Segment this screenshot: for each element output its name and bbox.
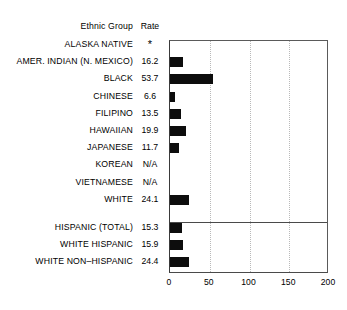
row-label-filipino: FILIPINO	[96, 105, 133, 121]
table-row: WHITE24.1	[0, 191, 169, 207]
row-label-hawaiian: HAWAIIAN	[89, 122, 133, 138]
row-label-alaska-native: ALASKA NATIVE	[65, 36, 133, 52]
row-rate-value: 16.2	[136, 53, 164, 69]
row-rate-value: N/A	[136, 156, 164, 172]
row-label-chinese: CHINESE	[93, 88, 133, 104]
x-tick-50: 50	[189, 276, 229, 288]
bar	[170, 74, 213, 84]
plot-area	[169, 40, 328, 273]
table-row: WHITE HISPANIC15.9	[0, 236, 169, 252]
table-row: WHITE NON–HISPANIC24.4	[0, 253, 169, 269]
row-label-black: BLACK	[104, 70, 133, 86]
row-label-japanese: JAPANESE	[87, 139, 133, 155]
row-label-white-non-hispanic: WHITE NON–HISPANIC	[35, 253, 133, 269]
table-row: KOREANN/A	[0, 156, 169, 172]
row-rate-value: 19.9	[136, 122, 164, 138]
gridline-150	[289, 41, 290, 272]
column-header-rate: Rate	[136, 18, 164, 34]
gridline-100	[250, 41, 251, 272]
bar	[170, 240, 183, 250]
row-rate-value: 15.9	[136, 236, 164, 252]
bar	[170, 223, 182, 233]
table-row: HISPANIC (TOTAL)15.3	[0, 219, 169, 235]
row-label-white: WHITE	[104, 191, 133, 207]
x-tick-150: 150	[268, 276, 308, 288]
row-rate-value: 13.5	[136, 105, 164, 121]
group-separator-line	[170, 222, 327, 223]
row-label-hispanic-total: HISPANIC (TOTAL)	[55, 219, 133, 235]
x-tick-0: 0	[149, 276, 189, 288]
row-label-korean: KOREAN	[95, 156, 133, 172]
x-tick-100: 100	[229, 276, 269, 288]
bar	[170, 143, 179, 153]
table-row: VIETNAMESEN/A	[0, 174, 169, 190]
row-rate-value: *	[136, 36, 164, 52]
table-row: ALASKA NATIVE*	[0, 36, 169, 52]
row-rate-value: 6.6	[136, 88, 164, 104]
table-row: FILIPINO13.5	[0, 105, 169, 121]
bar	[170, 109, 181, 119]
bar	[170, 195, 189, 205]
row-rate-value: 15.3	[136, 219, 164, 235]
table-row: HAWAIIAN19.9	[0, 122, 169, 138]
row-rate-value: 53.7	[136, 70, 164, 86]
table-row: CHINESE6.6	[0, 88, 169, 104]
row-rate-value: N/A	[136, 174, 164, 190]
column-header-ethnic-group: Ethnic Group	[80, 18, 133, 34]
table-row: BLACK53.7	[0, 70, 169, 86]
ethnic-group-rate-bar-chart: Ethnic Group Rate ALASKA NATIVE*AMER. IN…	[0, 0, 347, 310]
bar	[170, 257, 189, 267]
table-row: JAPANESE11.7	[0, 139, 169, 155]
bar	[170, 92, 175, 102]
row-rate-value: 24.1	[136, 191, 164, 207]
row-label-white-hispanic: WHITE HISPANIC	[60, 236, 133, 252]
row-label-vietnamese: VIETNAMESE	[76, 174, 134, 190]
row-rate-value: 24.4	[136, 253, 164, 269]
row-rate-value: 11.7	[136, 139, 164, 155]
bar	[170, 126, 186, 136]
x-tick-200: 200	[308, 276, 347, 288]
x-axis-tick-labels: 050100150200	[169, 276, 328, 292]
row-label-amer-indian-n-mexico: AMER. INDIAN (N. MEXICO)	[16, 53, 133, 69]
table-row: AMER. INDIAN (N. MEXICO)16.2	[0, 53, 169, 69]
bar	[170, 57, 183, 67]
table-header-row: Ethnic Group Rate	[0, 18, 169, 34]
